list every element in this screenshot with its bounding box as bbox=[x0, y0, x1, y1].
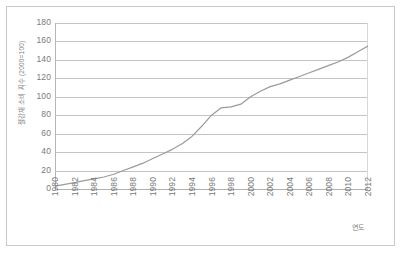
y-tick-label-100: 100 bbox=[21, 92, 51, 101]
x-tick-label-2000: 2000 bbox=[246, 177, 256, 213]
x-tick-label-2012: 2012 bbox=[363, 177, 373, 213]
x-tick-label-1992: 1992 bbox=[167, 177, 177, 213]
x-tick-label-2010: 2010 bbox=[343, 177, 353, 213]
y-tick-label-40: 40 bbox=[21, 147, 51, 156]
y-tick-label-0: 0 bbox=[21, 184, 51, 193]
x-tick-label-1988: 1988 bbox=[128, 177, 138, 213]
x-axis-tick-labels: 1980198219841986198819901992199419961998… bbox=[55, 190, 368, 230]
x-tick-label-1998: 1998 bbox=[226, 177, 236, 213]
x-tick-label-1990: 1990 bbox=[148, 177, 158, 213]
y-tick-label-180: 180 bbox=[21, 18, 51, 27]
x-tick-label-1980: 1980 bbox=[50, 177, 60, 213]
x-axis-title: 연도 bbox=[352, 222, 364, 232]
y-tick-label-20: 20 bbox=[21, 166, 51, 175]
y-tick-label-60: 60 bbox=[21, 129, 51, 138]
x-tick-label-1984: 1984 bbox=[89, 177, 99, 213]
x-tick-label-1982: 1982 bbox=[70, 177, 80, 213]
x-tick-label-2002: 2002 bbox=[265, 177, 275, 213]
y-tick-label-140: 140 bbox=[21, 55, 51, 64]
data-series-line bbox=[55, 23, 368, 189]
y-axis-tick-labels: 020406080100120140160180 bbox=[15, 23, 51, 189]
x-tick-label-1986: 1986 bbox=[109, 177, 119, 213]
x-tick-label-1996: 1996 bbox=[207, 177, 217, 213]
x-tick-label-2004: 2004 bbox=[285, 177, 295, 213]
chart-figure: 철강재 소비 지수 (2000=100) 0204060801001201401… bbox=[0, 0, 403, 254]
y-tick-label-80: 80 bbox=[21, 110, 51, 119]
x-tick-label-1994: 1994 bbox=[187, 177, 197, 213]
y-tick-label-160: 160 bbox=[21, 36, 51, 45]
x-tick-label-2006: 2006 bbox=[304, 177, 314, 213]
y-tick-label-120: 120 bbox=[21, 73, 51, 82]
x-tick-label-2008: 2008 bbox=[324, 177, 334, 213]
